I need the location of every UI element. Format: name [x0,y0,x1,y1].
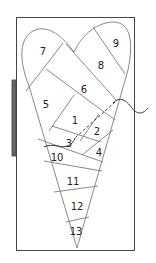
piece-label-5: 5 [43,99,49,110]
piece-label-6: 6 [81,84,87,95]
binder-strip [12,80,16,156]
piece-label-12: 12 [71,201,84,212]
piece-label-2: 2 [94,126,100,137]
piece-label-7: 7 [40,46,46,57]
heart-pattern-diagram: 1 2 3 4 5 6 7 8 9 10 11 12 13 [0,0,156,263]
piece-label-1: 1 [72,115,78,126]
piece-label-13: 13 [70,226,83,237]
piece-label-10: 10 [51,152,64,163]
piece-label-3: 3 [66,138,72,149]
piece-label-4: 4 [96,147,102,158]
piece-label-9: 9 [113,38,119,49]
piece-label-8: 8 [98,60,104,71]
piece-label-11: 11 [67,176,80,187]
